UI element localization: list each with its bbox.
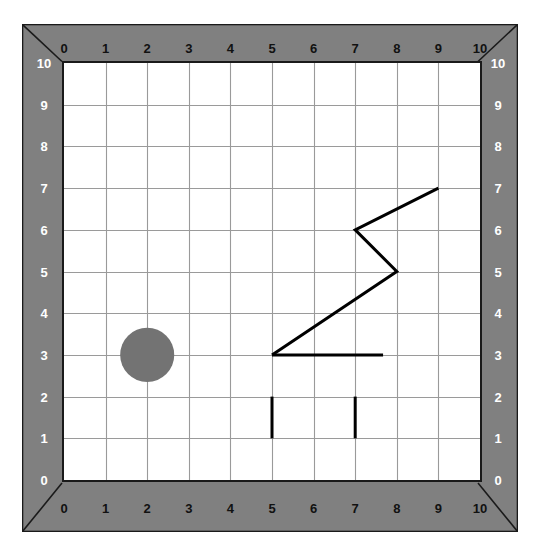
coordinate-grid-board: 012345678910 012345678910 109876543210 1…	[0, 0, 541, 560]
plot-graphic	[64, 63, 480, 480]
plot-area[interactable]	[62, 61, 482, 482]
circle	[120, 328, 174, 382]
